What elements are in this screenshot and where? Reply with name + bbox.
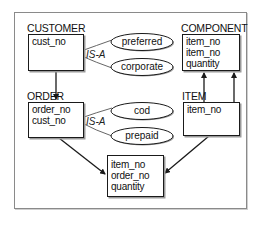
- subtype-preferred-label: preferred: [111, 36, 173, 48]
- order-orderitem-arrow: [59, 138, 105, 174]
- entity-item[interactable]: item_no: [183, 102, 240, 136]
- entity-label-order: ORDER: [27, 91, 64, 102]
- attribute: cust_no: [32, 36, 80, 47]
- attribute: quantity: [186, 58, 236, 69]
- attribute: item_no: [186, 47, 236, 58]
- entity-customer[interactable]: cust_no: [28, 34, 84, 71]
- subtype-prepaid-label: prepaid: [111, 130, 173, 142]
- isa-label-order: IS-A: [86, 116, 105, 127]
- attribute: item_no: [186, 36, 236, 47]
- attribute: order_no: [111, 170, 160, 181]
- entity-component[interactable]: item_no item_no quantity: [182, 34, 240, 71]
- isa-label-customer: IS-A: [86, 49, 105, 60]
- entity-order-item[interactable]: item_no order_no quantity: [107, 155, 164, 197]
- entity-label-component: COMPONENT: [181, 23, 247, 34]
- attribute: cust_no: [32, 115, 80, 126]
- subtype-cod-label: cod: [111, 105, 173, 117]
- attribute: item_no: [111, 159, 160, 170]
- attribute: quantity: [111, 181, 160, 192]
- entity-order[interactable]: order_no cust_no: [28, 102, 84, 138]
- subtype-corporate-label: corporate: [111, 61, 173, 73]
- entity-label-item: ITEM: [182, 91, 206, 102]
- attribute: item_no: [187, 104, 236, 115]
- entity-label-customer: CUSTOMER: [27, 23, 85, 34]
- attribute: order_no: [32, 104, 80, 115]
